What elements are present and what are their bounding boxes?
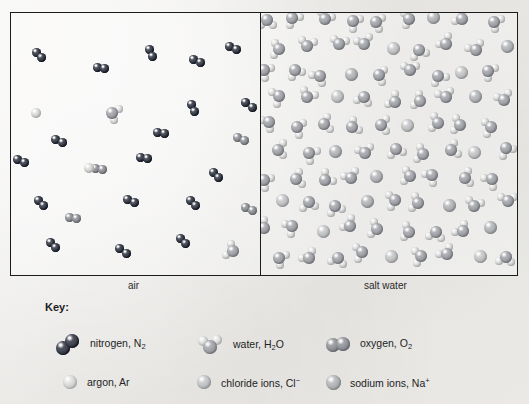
atom-sphere: [260, 222, 270, 234]
atom-sphere: [456, 13, 468, 25]
atom-sphere: [227, 245, 239, 257]
atom-sphere: [333, 38, 345, 50]
atom-sphere: [426, 169, 438, 181]
atom-sphere: [414, 95, 426, 107]
atom-sphere: [468, 200, 480, 212]
atom-sphere: [197, 375, 211, 389]
atom-sphere: [196, 58, 205, 67]
atom-sphere: [486, 173, 498, 185]
atom-sphere: [272, 144, 284, 156]
atom-sphere: [301, 40, 313, 52]
atom-sphere: [457, 225, 469, 237]
atom-sphere: [373, 69, 385, 81]
atom-sphere: [106, 107, 118, 119]
panel-air: [11, 13, 260, 275]
atom-sphere: [345, 172, 357, 184]
atom-sphere: [455, 66, 468, 79]
atom-sphere: [39, 201, 48, 210]
key-title: Key:: [45, 301, 69, 313]
atom-sphere: [440, 91, 452, 103]
key-label-argon: argon, Ar: [87, 376, 130, 388]
key-entry-oxygen: oxygen, O2: [325, 334, 412, 354]
key-label-sodium-ion: sodium ions, Na+: [350, 376, 430, 389]
atom-sphere: [359, 147, 371, 159]
panel-caption-salt-water: salt water: [364, 280, 407, 291]
atom-sphere: [484, 221, 497, 234]
atom-sphere: [389, 194, 401, 206]
atom-sphere: [469, 90, 482, 103]
atom-sphere: [329, 145, 342, 158]
key-entry-argon: argon, Ar: [62, 374, 130, 390]
atom-sphere: [440, 38, 452, 50]
atom-sphere: [488, 16, 500, 28]
atom-sphere: [248, 103, 257, 112]
atom-sphere: [319, 13, 331, 25]
atom-sphere: [415, 250, 427, 262]
atom-sphere: [65, 334, 79, 348]
panel-caption-air: air: [128, 280, 139, 291]
atom-sphere: [214, 173, 223, 182]
atom-sphere: [344, 220, 356, 232]
panel-salt-water: [260, 13, 517, 275]
atom-sphere: [37, 53, 46, 62]
atom-sphere: [485, 121, 497, 133]
atom-sphere: [454, 119, 466, 131]
atom-sphere: [470, 44, 482, 56]
atom-sphere: [432, 117, 444, 129]
atom-sphere: [389, 96, 401, 108]
atom-sphere: [500, 251, 512, 263]
atom-sphere: [370, 170, 383, 183]
atom-sphere: [317, 225, 330, 238]
key-entry-chloride-ion: chloride ions, Cl−: [196, 374, 300, 390]
atom-sphere: [160, 129, 169, 138]
atom-sphere: [260, 174, 270, 186]
atom-sphere: [403, 226, 415, 238]
atom-sphere: [263, 116, 275, 128]
atom-sphere: [331, 90, 344, 103]
atom-sphere: [191, 201, 200, 210]
atom-sphere: [358, 91, 370, 103]
atom-sphere: [401, 119, 414, 132]
atom-sphere: [385, 250, 398, 263]
key-entry-sodium-ion: sodium ions, Na+: [325, 374, 430, 390]
atom-sphere: [430, 226, 442, 238]
atom-sphere: [276, 194, 289, 207]
atom-sphere: [122, 249, 131, 258]
atom-sphere: [273, 90, 285, 102]
atom-sphere: [404, 64, 416, 76]
atom-sphere: [248, 206, 257, 215]
atom-sphere: [412, 197, 424, 209]
nitrogen-molecule-icon: [55, 334, 81, 354]
atom-sphere: [345, 68, 358, 81]
atom-sphere: [319, 174, 331, 186]
sodium-ion-icon: [325, 374, 341, 390]
atom-sphere: [203, 340, 217, 354]
atom-sphere: [58, 138, 67, 147]
atom-sphere: [286, 220, 298, 232]
atom-sphere: [240, 136, 249, 145]
atom-sphere: [181, 239, 190, 248]
key-label-nitrogen: nitrogen, N2: [90, 337, 146, 351]
atom-sphere: [361, 195, 374, 208]
atom-sphere: [358, 38, 370, 50]
atom-sphere: [443, 199, 456, 212]
atom-sphere: [51, 243, 60, 252]
atom-sphere: [468, 146, 481, 159]
atom-sphere: [427, 13, 440, 24]
atom-sphere: [318, 118, 330, 130]
atom-sphere: [130, 198, 139, 207]
atom-sphere: [303, 147, 315, 159]
atom-sphere: [98, 165, 107, 174]
atom-sphere: [301, 91, 313, 103]
atom-sphere: [403, 13, 415, 25]
atom-sphere: [20, 158, 29, 167]
atom-sphere: [500, 142, 512, 154]
water-molecule-icon: [196, 334, 224, 356]
atom-sphere: [347, 15, 359, 27]
atom-sphere: [303, 196, 315, 208]
argon-atom-icon: [62, 374, 78, 390]
salt-water-particle-field: [261, 13, 517, 275]
atom-sphere: [390, 143, 402, 155]
atom-sphere: [260, 64, 270, 76]
atom-sphere: [273, 43, 285, 55]
